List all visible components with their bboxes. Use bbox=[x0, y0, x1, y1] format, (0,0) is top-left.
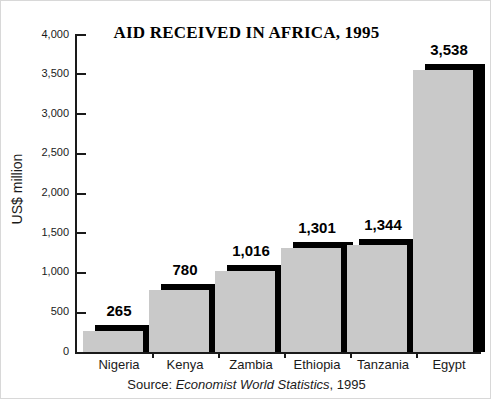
bar-group[interactable]: 265 bbox=[83, 34, 155, 352]
plot-area: 265 780 1,016 1,301 1,344 bbox=[75, 34, 481, 352]
x-tick-label-tanzania: Tanzania bbox=[347, 357, 419, 372]
bar-fill bbox=[281, 248, 341, 352]
bar-group[interactable]: 1,344 bbox=[347, 34, 419, 352]
bar-value-label: 1,344 bbox=[347, 216, 419, 233]
y-tick-label: 2,000 bbox=[5, 187, 69, 198]
bar-fill bbox=[413, 70, 473, 352]
bar-fill bbox=[83, 331, 143, 352]
y-tick-label: 1,500 bbox=[5, 227, 69, 238]
source-note: Source: Economist World Statistics, 1995 bbox=[1, 377, 491, 392]
bar-fill bbox=[347, 245, 407, 352]
bar-fill bbox=[149, 290, 209, 352]
source-prefix: Source: bbox=[127, 377, 175, 392]
bar-value-label: 1,301 bbox=[281, 219, 353, 236]
x-tick-label-zambia: Zambia bbox=[215, 357, 287, 372]
bar-group[interactable]: 1,301 bbox=[281, 34, 353, 352]
x-tick-label-nigeria: Nigeria bbox=[83, 357, 155, 372]
chart-figure: AID RECEIVED IN AFRICA, 1995 US$ million… bbox=[0, 0, 491, 399]
bar-value-label: 1,016 bbox=[215, 242, 287, 259]
bar-value-label: 3,538 bbox=[413, 41, 485, 58]
x-tick-label-egypt: Egypt bbox=[413, 357, 485, 372]
source-suffix: , 1995 bbox=[330, 377, 366, 392]
bar-value-label: 265 bbox=[83, 302, 155, 319]
bar-fill bbox=[215, 271, 275, 352]
y-tick-label: 3,000 bbox=[5, 108, 69, 119]
x-tick-label-kenya: Kenya bbox=[149, 357, 221, 372]
y-axis-tick-labels: 4,000 3,500 3,000 2,500 2,000 1,500 1,00… bbox=[1, 1, 69, 399]
source-publication: Economist World Statistics bbox=[176, 377, 330, 392]
y-tick-label: 500 bbox=[5, 306, 69, 317]
bar-value-label: 780 bbox=[149, 261, 221, 278]
x-tick-label-ethiopia: Ethiopia bbox=[281, 357, 353, 372]
y-tick-label: 3,500 bbox=[5, 68, 69, 79]
bar-group[interactable]: 3,538 bbox=[413, 34, 485, 352]
bar-group[interactable]: 1,016 bbox=[215, 34, 287, 352]
bar-group[interactable]: 780 bbox=[149, 34, 221, 352]
y-tick-label: 4,000 bbox=[5, 29, 69, 40]
y-tick-label: 2,500 bbox=[5, 147, 69, 158]
x-axis-spine bbox=[75, 352, 481, 354]
y-tick-label: 0 bbox=[5, 346, 69, 357]
y-tick-label: 1,000 bbox=[5, 266, 69, 277]
